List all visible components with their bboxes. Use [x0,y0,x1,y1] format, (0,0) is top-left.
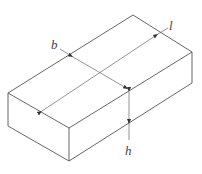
block-outline [8,15,192,161]
width-dimension: b [51,37,128,89]
width-label: b [51,37,58,52]
height-label: h [125,143,132,158]
length-dimension: l [42,18,173,111]
length-label: l [169,18,173,33]
block-diagram: l b h [0,0,202,174]
